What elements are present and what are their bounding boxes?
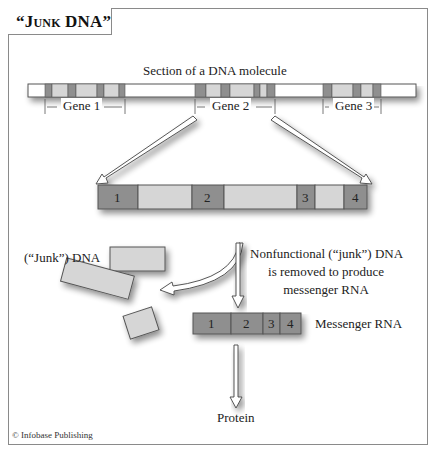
process-note-line-3: messenger RNA — [250, 281, 402, 299]
gene-3-label: Gene 3 — [333, 98, 374, 114]
mrna-label: Messenger RNA — [315, 316, 402, 332]
exon-1-label: 1 — [114, 190, 121, 205]
exon-3-label: 3 — [302, 190, 309, 205]
gene-2-label: Gene 2 — [210, 98, 251, 114]
exon-2-label: 2 — [204, 190, 211, 205]
down-arrow-mrna — [232, 243, 244, 308]
mrna-segment-3: 3 — [268, 316, 275, 331]
mrna-segment-4: 4 — [287, 316, 294, 331]
protein-label: Protein — [217, 410, 255, 426]
expand-arrows — [96, 116, 372, 184]
expanded-gene — [98, 185, 367, 209]
curved-arrow-junk — [160, 243, 243, 295]
diagram-graphics: 1 2 3 4 1 2 3 4 — [0, 0, 436, 459]
process-note-line-2: is removed to produce — [250, 263, 402, 281]
mrna-segment-1: 1 — [208, 316, 215, 331]
copyright-credit: © Infobase Publishing — [12, 430, 93, 440]
junk-dna-label: (“Junk”) DNA — [24, 250, 100, 266]
dna-molecule-strip — [28, 84, 416, 97]
process-note: Nonfunctional (“junk”) DNA is removed to… — [250, 245, 402, 299]
mrna-segment-2: 2 — [243, 316, 250, 331]
down-arrow-protein — [230, 345, 242, 408]
process-note-line-1: Nonfunctional (“junk”) DNA — [250, 245, 402, 263]
gene-1-label: Gene 1 — [61, 98, 102, 114]
exon-4-label: 4 — [352, 190, 359, 205]
